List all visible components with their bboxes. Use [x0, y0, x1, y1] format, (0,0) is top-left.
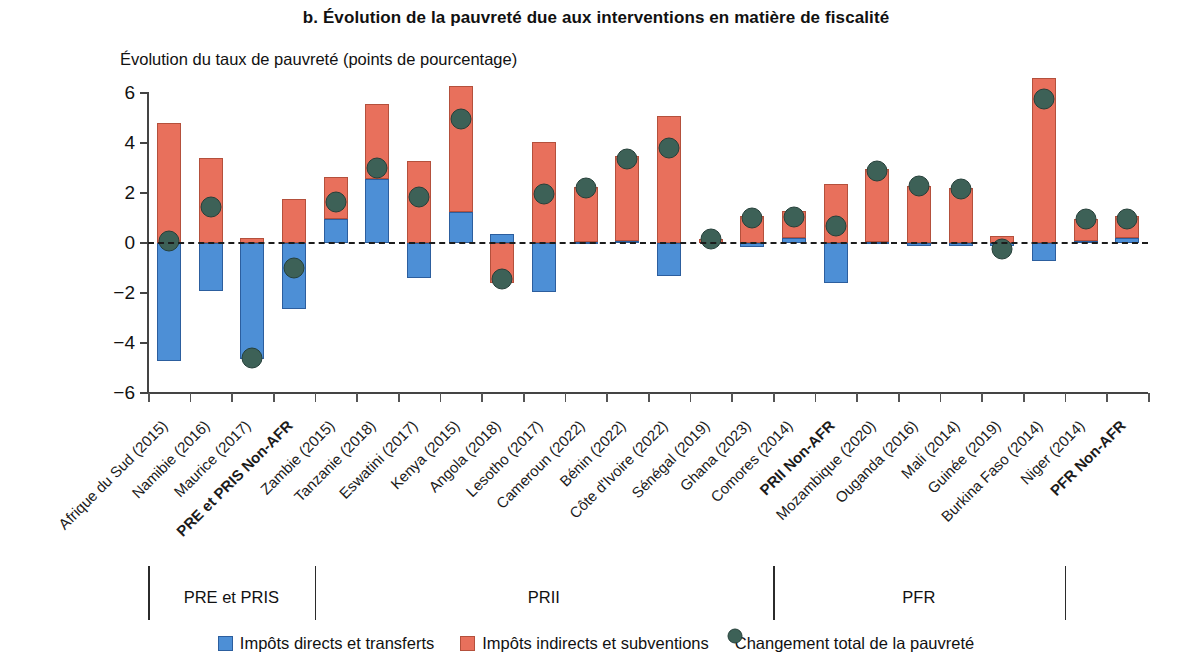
x-category-label-19: Mali (2014) — [667, 417, 962, 667]
x-category-label-6: Eswatini (2017) — [126, 417, 421, 667]
y-tick-mark-2 — [140, 192, 148, 194]
x-category-label-18: Ouganda (2016) — [626, 417, 921, 667]
total-poverty-marker-19 — [950, 179, 971, 200]
x-category-label-21: Burkina Faso (2014) — [751, 417, 1046, 667]
x-tick-mark-12 — [648, 393, 650, 402]
x-category-label-7: Kenya (2015) — [167, 417, 462, 667]
x-category-label-11: Bénin (2022) — [334, 417, 629, 667]
total-poverty-marker-3 — [283, 258, 304, 279]
x-tick-mark-5 — [356, 393, 358, 402]
x-tick-mark-16 — [815, 393, 817, 402]
total-poverty-marker-17 — [867, 160, 888, 181]
total-poverty-marker-7 — [450, 109, 471, 130]
total-poverty-marker-23 — [1117, 209, 1138, 230]
figure-title: b. Évolution de la pauvreté due aux inte… — [0, 8, 1192, 28]
y-tick-mark-3 — [140, 242, 148, 244]
bar-direct-taxes-4 — [324, 219, 348, 243]
x-category-label-15: Comores (2014) — [501, 417, 796, 667]
y-tick-label-0: 6 — [95, 82, 135, 104]
y-tick-mark-0 — [140, 92, 148, 94]
bar-direct-taxes-9 — [532, 243, 556, 292]
y-axis-title: Évolution du taux de pauvreté (points de… — [120, 50, 517, 69]
legend-item-indirect[interactable]: Impôts indirects et subventions — [460, 634, 709, 653]
bar-direct-taxes-1 — [199, 243, 223, 291]
total-poverty-marker-12 — [658, 138, 679, 159]
total-poverty-marker-6 — [408, 186, 429, 207]
x-tick-mark-14 — [731, 393, 733, 402]
y-tick-label-3: 0 — [95, 232, 135, 254]
bar-direct-taxes-7 — [449, 212, 473, 243]
x-tick-mark-21 — [1023, 393, 1025, 402]
x-tick-mark-20 — [981, 393, 983, 402]
bar-direct-taxes-0 — [157, 243, 181, 361]
bar-indirect-taxes-0 — [157, 123, 181, 243]
y-tick-mark-1 — [140, 142, 148, 144]
x-tick-mark-23 — [1106, 393, 1108, 402]
x-category-label-20: Guinée (2019) — [709, 417, 1004, 667]
bar-direct-taxes-5 — [365, 179, 389, 243]
y-tick-label-5: −4 — [95, 332, 135, 354]
y-tick-mark-6 — [140, 392, 148, 394]
total-poverty-marker-10 — [575, 178, 596, 199]
total-poverty-marker-0 — [158, 230, 179, 251]
y-tick-label-1: 4 — [95, 132, 135, 154]
legend-item-total[interactable]: Changement total de la pauvreté — [735, 634, 974, 653]
x-category-label-2: Maurice (2017) — [0, 417, 254, 667]
x-category-label-12: Côte d'Ivoire (2022) — [376, 417, 671, 667]
legend-label-total: Changement total de la pauvreté — [735, 634, 974, 653]
total-poverty-marker-15 — [783, 206, 804, 227]
x-tick-mark-3 — [273, 393, 275, 402]
x-category-label-5: Tanzanie (2018) — [84, 417, 379, 667]
x-tick-mark-22 — [1065, 393, 1067, 402]
x-category-label-14: Ghana (2023) — [459, 417, 754, 667]
group-separator-2-1 — [1065, 566, 1067, 620]
x-tick-mark-4 — [315, 393, 317, 402]
bar-direct-taxes-6 — [407, 243, 431, 278]
group-separator-1-0 — [315, 566, 317, 620]
total-poverty-marker-2 — [242, 348, 263, 369]
total-poverty-marker-11 — [617, 149, 638, 170]
zero-reference-line — [148, 242, 1148, 244]
y-tick-label-6: −6 — [95, 382, 135, 404]
x-category-label-9: Lesotho (2017) — [251, 417, 546, 667]
legend-label-indirect: Impôts indirects et subventions — [482, 634, 709, 653]
y-tick-mark-4 — [140, 292, 148, 294]
x-tick-mark-18 — [898, 393, 900, 402]
bar-indirect-taxes-7 — [449, 86, 473, 212]
legend-item-direct[interactable]: Impôts directs et transferts — [218, 634, 434, 653]
legend-swatch-total-icon — [727, 629, 742, 644]
figure-panel: b. Évolution de la pauvreté due aux inte… — [0, 0, 1192, 667]
x-category-label-10: Cameroun (2022) — [292, 417, 587, 667]
total-poverty-marker-1 — [200, 196, 221, 217]
total-poverty-marker-4 — [325, 191, 346, 212]
bar-direct-taxes-21 — [1032, 243, 1056, 261]
legend-swatch-indirect-icon — [460, 636, 475, 651]
group-separator-0-0 — [148, 566, 150, 620]
total-poverty-marker-8 — [492, 269, 513, 290]
total-poverty-marker-18 — [908, 175, 929, 196]
x-tick-mark-13 — [690, 393, 692, 402]
x-category-label-4: Zambie (2015) — [42, 417, 337, 667]
group-separator-2-0 — [773, 566, 775, 620]
total-poverty-marker-9 — [533, 184, 554, 205]
x-category-label-1: Namibie (2016) — [0, 417, 212, 667]
x-tick-mark-8 — [481, 393, 483, 402]
group-label-1: PRII — [528, 588, 560, 607]
x-category-label-22: Niger (2014) — [792, 417, 1087, 667]
x-tick-mark-17 — [856, 393, 858, 402]
x-tick-mark-19 — [940, 393, 942, 402]
bar-direct-taxes-2 — [240, 243, 264, 359]
x-category-label-0: Afrique du Sud (2015) — [0, 417, 171, 667]
x-category-label-8: Angola (2018) — [209, 417, 504, 667]
total-poverty-marker-14 — [742, 208, 763, 229]
group-label-0: PRE et PRIS — [184, 588, 279, 607]
y-tick-label-2: 2 — [95, 182, 135, 204]
total-poverty-marker-21 — [1033, 89, 1054, 110]
y-tick-mark-5 — [140, 342, 148, 344]
x-category-label-3: PRE et PRIS Non-AFR — [1, 417, 296, 667]
x-tick-mark-11 — [606, 393, 608, 402]
x-tick-mark-10 — [565, 393, 567, 402]
x-tick-mark-7 — [440, 393, 442, 402]
x-category-label-13: Sénégal (2019) — [417, 417, 712, 667]
total-poverty-marker-22 — [1075, 209, 1096, 230]
